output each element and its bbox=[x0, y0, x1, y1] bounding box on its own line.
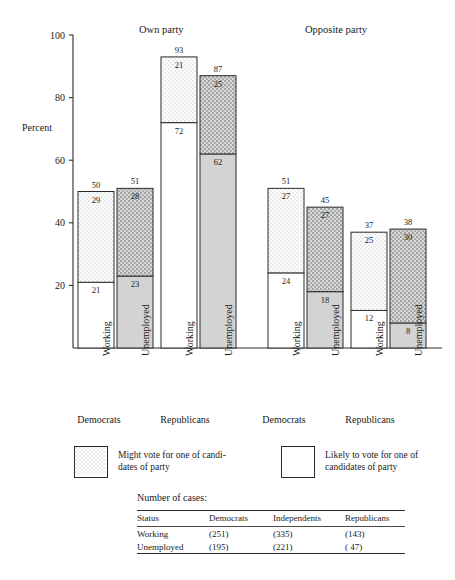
cell-independents: (221) bbox=[273, 540, 345, 553]
bar-total-label: 51 bbox=[282, 176, 291, 186]
cell-republicans: ( 47) bbox=[345, 540, 405, 553]
bar-total-label: 93 bbox=[175, 45, 184, 55]
party-label-0: Democrats bbox=[63, 414, 135, 425]
category-label-working-0: Working bbox=[101, 321, 112, 356]
bar-value-might: 25 bbox=[365, 235, 374, 245]
party-label-1: Republicans bbox=[145, 414, 225, 425]
col-header-independents: Independents bbox=[273, 511, 345, 526]
bar-total-label: 38 bbox=[404, 217, 413, 227]
bar-segment-might bbox=[117, 188, 153, 276]
legend-swatch-might-vote bbox=[74, 446, 108, 478]
category-label-unemployed-3: Unemployed bbox=[223, 304, 234, 356]
legend-line-2: candidates of party bbox=[325, 462, 455, 474]
bar-value-likely: 23 bbox=[131, 279, 140, 289]
party-label-3: Republicans bbox=[330, 414, 410, 425]
bar-value-likely: 18 bbox=[321, 295, 330, 305]
bar-total-label: 50 bbox=[92, 180, 101, 190]
party-label-2: Democrats bbox=[248, 414, 320, 425]
bar-value-likely: 24 bbox=[282, 276, 291, 286]
y-tick-label: 100 bbox=[50, 30, 65, 41]
legend-swatch-likely-vote bbox=[281, 446, 315, 478]
bar-value-might: 28 bbox=[131, 191, 140, 201]
legend-line-1: Likely to vote for one of bbox=[325, 450, 455, 462]
bar-segment-likely bbox=[161, 123, 197, 348]
bar-total-label: 37 bbox=[365, 220, 374, 230]
cell-democrats: (251) bbox=[209, 527, 273, 540]
bar-value-likely: 8 bbox=[406, 326, 410, 336]
y-tick-label: 80 bbox=[55, 92, 65, 103]
bar-total-label: 45 bbox=[321, 195, 330, 205]
category-label-unemployed-7: Unemployed bbox=[413, 304, 424, 356]
legend-line-2: dates of party bbox=[118, 462, 263, 474]
bar-value-might: 21 bbox=[175, 60, 184, 70]
bar-value-likely: 62 bbox=[214, 157, 223, 167]
bar-value-likely: 12 bbox=[365, 313, 374, 323]
bar-value-likely: 72 bbox=[175, 126, 184, 136]
cases-table-wrap: Status Democrats Independents Republican… bbox=[137, 510, 405, 554]
cases-caption: Number of cases: bbox=[137, 492, 207, 503]
table-row: Unemployed (195) (221) ( 47) bbox=[137, 540, 405, 553]
bar-value-might: 27 bbox=[282, 191, 291, 201]
category-label-unemployed-5: Unemployed bbox=[330, 304, 341, 356]
legend-line-1: Might vote for one of candi- bbox=[118, 450, 263, 462]
category-label-unemployed-1: Unemployed bbox=[140, 304, 151, 356]
cell-democrats: (195) bbox=[209, 540, 273, 553]
table-rule-bottom bbox=[137, 553, 405, 554]
category-label-working-2: Working bbox=[184, 321, 195, 356]
cell-independents: (335) bbox=[273, 527, 345, 540]
bar-total-label: 87 bbox=[214, 64, 223, 74]
table-header-row: Status Democrats Independents Republican… bbox=[137, 511, 405, 526]
chart-figure: Own party Opposite party Percent 2040608… bbox=[0, 0, 455, 580]
bar-value-might: 25 bbox=[214, 79, 223, 89]
bar-value-might: 27 bbox=[321, 210, 330, 220]
bar-segment-might bbox=[78, 192, 114, 283]
category-label-working-4: Working bbox=[291, 321, 302, 356]
col-header-democrats: Democrats bbox=[209, 511, 273, 526]
legend-text-likely-vote: Likely to vote for one of candidates of … bbox=[325, 450, 455, 473]
y-tick-label: 60 bbox=[55, 155, 65, 166]
cell-status: Working bbox=[137, 527, 209, 540]
category-label-working-6: Working bbox=[374, 321, 385, 356]
legend-text-might-vote: Might vote for one of candi- dates of pa… bbox=[118, 450, 263, 473]
bar-value-might: 29 bbox=[92, 195, 101, 205]
cell-status: Unemployed bbox=[137, 540, 209, 553]
table-row: Working (251) (335) (143) bbox=[137, 527, 405, 540]
col-header-republicans: Republicans bbox=[345, 511, 405, 526]
cell-republicans: (143) bbox=[345, 527, 405, 540]
bar-value-might: 30 bbox=[404, 232, 413, 242]
cases-table-body: Working (251) (335) (143) Unemployed (19… bbox=[137, 527, 405, 553]
legend-swatch-fill bbox=[75, 447, 105, 475]
bar-value-likely: 21 bbox=[92, 285, 101, 295]
y-tick-label: 20 bbox=[55, 280, 65, 291]
cases-table: Status Democrats Independents Republican… bbox=[137, 511, 405, 526]
col-header-status: Status bbox=[137, 511, 209, 526]
y-tick-label: 40 bbox=[55, 217, 65, 228]
bar-total-label: 51 bbox=[131, 176, 140, 186]
